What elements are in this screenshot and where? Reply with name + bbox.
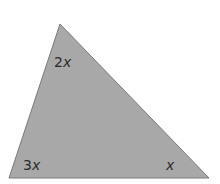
angle-label-bottom-right: x bbox=[165, 157, 175, 173]
triangle-diagram: 2x 3x x bbox=[0, 0, 220, 184]
angle-label-bottom-left: 3x bbox=[23, 157, 41, 173]
triangle-shape bbox=[9, 24, 209, 178]
angle-label-top: 2x bbox=[54, 54, 72, 70]
triangle-svg: 2x 3x x bbox=[0, 0, 220, 184]
